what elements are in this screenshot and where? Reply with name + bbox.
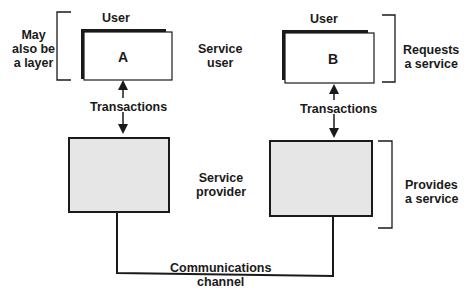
left-note-line2: also be xyxy=(12,42,55,56)
right-top-bracket xyxy=(382,15,395,82)
requests-line2: a service xyxy=(403,57,459,71)
channel-line2: channel xyxy=(170,275,271,289)
channel-line1: Communications xyxy=(170,261,271,275)
service-user-line1: Service xyxy=(198,42,242,56)
service-provider-line2: provider xyxy=(196,185,246,199)
arrow-down-icon-b xyxy=(329,128,339,138)
provides-line1: Provides xyxy=(405,178,459,192)
user-b-letter: B xyxy=(328,52,338,66)
arrow-up-icon xyxy=(118,80,128,90)
service-user-line2: user xyxy=(198,56,242,70)
requests-line1: Requests xyxy=(403,43,459,57)
user-a-heading: User xyxy=(102,11,130,25)
service-provider-label: Service provider xyxy=(196,171,246,199)
service-provider-line1: Service xyxy=(196,171,246,185)
right-bottom-bracket xyxy=(378,141,392,228)
arrow-down-icon xyxy=(118,124,128,134)
requests-label: Requests a service xyxy=(403,43,459,71)
provides-label: Provides a service xyxy=(405,178,459,206)
user-b-heading: User xyxy=(310,12,338,26)
left-note-line3: a layer xyxy=(12,56,55,70)
provider-a-box xyxy=(69,138,169,212)
user-a-letter: A xyxy=(118,50,128,64)
service-user-label: Service user xyxy=(198,42,242,70)
channel-label: Communications channel xyxy=(170,261,271,289)
provider-b-box xyxy=(270,141,372,216)
arrow-up-icon-b xyxy=(329,84,339,94)
left-bracket xyxy=(57,12,71,80)
left-note: May also be a layer xyxy=(12,28,55,70)
transactions-b-label: Transactions xyxy=(300,102,377,116)
provides-line2: a service xyxy=(405,192,459,206)
transactions-a-label: Transactions xyxy=(90,100,167,114)
left-note-line1: May xyxy=(12,28,55,42)
